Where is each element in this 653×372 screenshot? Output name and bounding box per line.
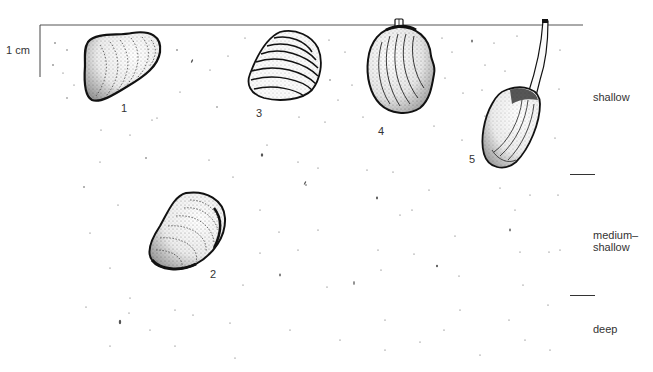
depth-zone-deep: deep: [593, 323, 617, 336]
bivalve-shell-1: [85, 32, 161, 100]
burrowing-bivalves-diagram: 1 cm 1 2 3 4 5 shallow medium– shallow d…: [0, 0, 653, 372]
zone-divider-2: [570, 295, 595, 296]
bivalve-shell-3: [249, 31, 321, 100]
bivalve-shell-4: [368, 19, 435, 113]
specimen-label-2: 2: [210, 268, 216, 280]
illustration-canvas: [0, 0, 653, 372]
siphon: [528, 21, 548, 96]
specimen-label-5: 5: [469, 153, 475, 165]
specimen-label-3: 3: [256, 107, 262, 119]
depth-zone-medium-shallow-line2: shallow: [593, 241, 630, 254]
zone-divider-1: [570, 174, 595, 175]
scale-label: 1 cm: [6, 44, 30, 56]
bivalve-shell-2: [150, 192, 225, 268]
bivalve-shell-5: [482, 19, 548, 168]
depth-zone-shallow: shallow: [593, 91, 630, 104]
specimen-label-1: 1: [121, 102, 127, 114]
specimen-label-4: 4: [378, 125, 384, 137]
